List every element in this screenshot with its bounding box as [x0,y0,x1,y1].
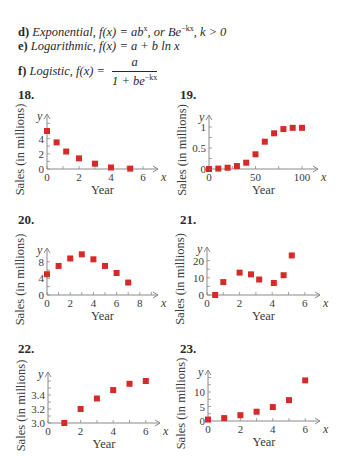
x-variable-label: x [322,296,329,310]
data-point-marker [286,397,292,403]
y-axis-title: Sales (in millions) [174,358,188,450]
x-variable-label: x [320,170,327,184]
x-tick-label: 4 [269,297,275,309]
x-tick-label: 4 [270,423,276,435]
data-point-marker [76,155,82,161]
y-axis-title: Sales (in millions) [175,104,189,196]
data-point-marker [63,149,69,155]
x-tick-label: 6 [114,297,120,309]
y-axis-title: Sales (in millions) [13,234,27,326]
y-axis-title: Sales (in millions) [173,233,187,325]
x-tick-label: 2 [78,425,84,437]
x-tick-label: 100 [294,171,311,183]
data-point-marker [114,270,120,276]
y-tick-label: 3.2 [31,403,45,415]
data-point-marker [206,166,212,172]
data-point-marker [290,125,296,131]
scatter-plot-22: 3.03.23.40246xyYearSales (in millions) [14,360,169,452]
x-axis-title: Year [91,183,115,197]
y-variable-label: y [36,109,43,123]
x-tick-label: 0 [44,297,50,309]
scatter-plot-19: 00.51050100xyYearSales (in millions) [175,104,327,197]
data-point-marker [56,263,62,269]
data-point-marker [215,166,221,172]
data-point-marker [221,415,227,421]
y-tick-label: 3.4 [31,389,45,401]
data-point-marker [237,412,243,418]
x-tick-label: 0 [205,423,211,435]
x-variable-label: x [162,424,169,438]
scatter-plots-canvas: 0240246xyYearSales (in millions)00.51050… [0,0,345,468]
y-tick-label: 20 [193,255,205,267]
y-variable-label: y [36,243,43,257]
x-tick-label: 2 [67,297,73,309]
x-tick-label: 4 [108,171,114,183]
data-point-marker [243,160,249,166]
x-tick-label: 0 [44,171,50,183]
data-point-marker [54,139,60,145]
data-point-marker [225,165,231,171]
x-variable-label: x [160,296,167,310]
data-point-marker [67,255,73,261]
x-tick-label: 6 [302,297,308,309]
data-point-marker [94,396,100,402]
data-point-marker [220,279,226,285]
scatter-plot-21: 010200246xyYearSales (in millions) [173,233,329,325]
x-axis-title: Year [91,309,115,323]
x-tick-label: 2 [238,423,244,435]
data-point-marker [125,280,131,286]
x-tick-label: 8 [137,297,143,309]
data-point-marker [254,409,260,415]
x-tick-label: 2 [76,171,82,183]
data-point-marker [270,404,276,410]
data-point-marker [281,272,287,278]
data-point-marker [271,130,277,136]
x-axis-title: Year [252,435,276,449]
x-axis-title: Year [252,309,276,323]
x-tick-label: 0 [206,171,212,183]
x-tick-label: 4 [91,297,97,309]
x-tick-label: 6 [143,425,149,437]
y-axis-title: Sales (in millions) [13,104,27,196]
x-tick-label: 6 [140,171,146,183]
data-point-marker [253,151,259,157]
scatter-plot-20: 04802468xyYearSales (in millions) [13,234,167,326]
data-point-marker [248,271,254,277]
x-variable-label: x [322,422,329,436]
data-point-marker [108,164,114,170]
data-point-marker [212,292,218,298]
data-point-marker [280,126,286,132]
data-point-marker [90,256,96,262]
y-variable-label: y [37,367,44,381]
y-tick-label: 4 [39,272,45,284]
data-point-marker [143,378,149,384]
data-point-marker [302,377,308,383]
data-point-marker [127,166,133,172]
x-tick-label: 0 [204,297,210,309]
x-tick-label: 6 [302,423,308,435]
data-point-marker [256,277,262,283]
data-point-marker [79,251,85,257]
y-variable-label: y [196,242,203,256]
data-point-marker [205,417,211,423]
y-tick-label: 4 [39,133,45,145]
y-variable-label: y [198,110,205,124]
y-tick-label: 2 [39,148,45,160]
data-point-marker [78,406,84,412]
x-tick-label: 50 [250,171,262,183]
x-axis-title: Year [252,183,276,197]
data-point-marker [127,381,133,387]
y-variable-label: y [197,365,204,379]
data-point-marker [61,420,67,426]
y-tick-label: 0.5 [192,142,206,154]
x-axis-title: Year [92,437,116,451]
data-point-marker [234,163,240,169]
y-tick-label: 3.0 [31,417,45,429]
x-tick-label: 0 [45,425,51,437]
y-tick-label: 10 [193,272,205,284]
x-tick-label: 4 [110,425,116,437]
data-point-marker [92,161,98,167]
data-point-marker [262,139,268,145]
data-point-marker [44,128,50,134]
y-tick-label: 10 [194,386,206,398]
